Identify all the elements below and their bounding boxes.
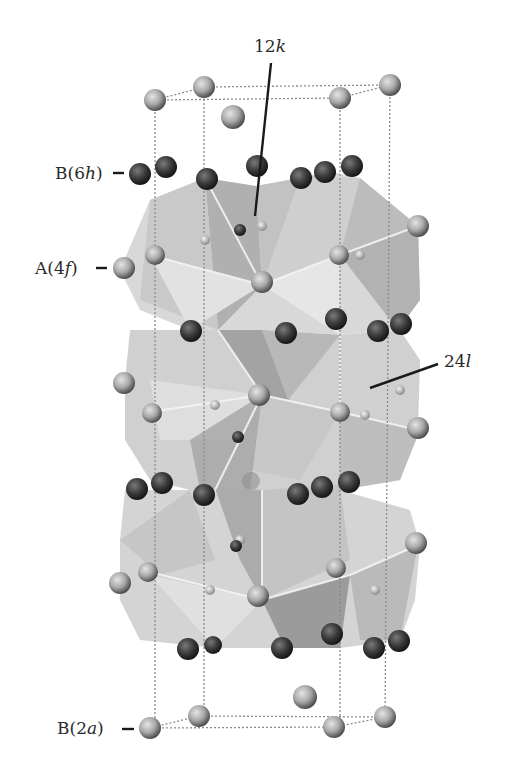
label-12k-italic: k [276, 36, 286, 56]
label-24l-italic: l [466, 351, 471, 371]
label-b2a-suffix: ) [97, 718, 104, 738]
label-12k: 12k [254, 38, 286, 55]
label-a4f-prefix: A(4 [35, 258, 65, 278]
polyhedra [120, 172, 420, 648]
crystal-structure-diagram [0, 0, 506, 784]
label-b6h-suffix: ) [96, 163, 103, 183]
label-a4f-suffix: ) [71, 258, 78, 278]
label-24l: 24l [444, 353, 471, 370]
label-24l-prefix: 24 [444, 351, 466, 371]
label-b6h: B(6h) [55, 165, 103, 182]
label-12k-prefix: 12 [254, 36, 276, 56]
label-b6h-prefix: B(6 [55, 163, 85, 183]
label-b2a-prefix: B(2 [57, 718, 87, 738]
label-b2a: B(2a) [57, 720, 104, 737]
label-b6h-italic: h [85, 163, 96, 183]
label-a4f: A(4f) [35, 260, 78, 277]
label-b2a-italic: a [87, 718, 97, 738]
